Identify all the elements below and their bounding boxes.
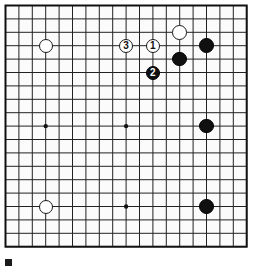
go-stone-black[interactable] bbox=[199, 199, 214, 214]
figure-caption bbox=[5, 256, 249, 268]
figure-marker-icon bbox=[5, 259, 12, 266]
go-diagram-figure: 312 bbox=[0, 0, 253, 268]
go-stone-black[interactable] bbox=[199, 119, 214, 134]
go-stone-black-move-2[interactable]: 2 bbox=[146, 66, 160, 80]
stone-move-number: 2 bbox=[150, 68, 156, 78]
go-stone-white-move-3[interactable]: 3 bbox=[119, 39, 133, 53]
go-stone-black[interactable] bbox=[199, 38, 214, 53]
stone-move-number: 1 bbox=[150, 41, 156, 51]
go-stone-white[interactable] bbox=[39, 39, 53, 53]
go-board[interactable]: 312 bbox=[0, 0, 253, 256]
go-stone-white[interactable] bbox=[39, 200, 53, 214]
stone-move-number: 3 bbox=[123, 41, 129, 51]
go-stone-white-move-1[interactable]: 1 bbox=[146, 39, 160, 53]
go-stones-layer: 312 bbox=[0, 0, 253, 256]
go-stone-white[interactable] bbox=[172, 25, 187, 40]
go-stone-black[interactable] bbox=[172, 52, 187, 67]
